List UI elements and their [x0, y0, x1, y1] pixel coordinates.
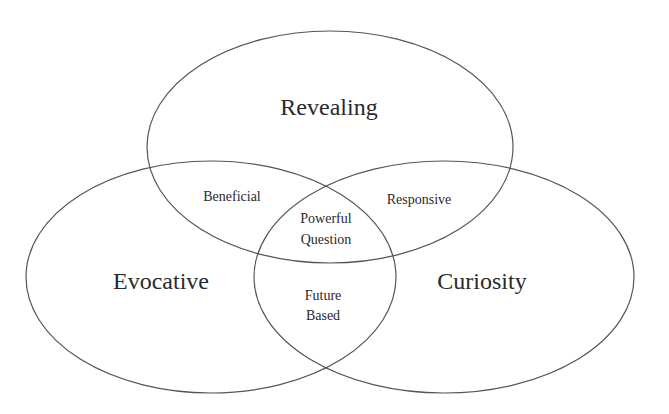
curiosity-label: Curiosity [437, 268, 526, 294]
based-label: Based [306, 308, 340, 323]
future-label: Future [305, 288, 342, 303]
revealing-circle [147, 31, 513, 263]
evocative-label: Evocative [113, 268, 209, 294]
beneficial-label: Beneficial [203, 189, 261, 204]
powerful-label: Powerful [300, 211, 351, 226]
venn-diagram: Revealing Evocative Curiosity Beneficial… [0, 0, 669, 414]
question-label: Question [301, 232, 352, 247]
revealing-label: Revealing [280, 94, 377, 120]
responsive-label: Responsive [387, 192, 452, 207]
